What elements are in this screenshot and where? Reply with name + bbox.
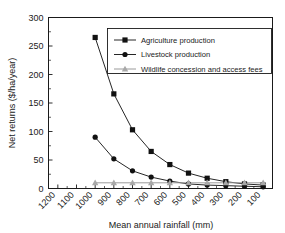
data-point-1-2 — [130, 168, 135, 173]
data-point-0-4 — [167, 162, 172, 167]
data-point-0-2 — [130, 127, 135, 132]
x-axis-title: Mean annual rainfall (mm) — [109, 220, 214, 230]
legend-item-label-0: Agriculture production — [141, 36, 215, 45]
series-line-1 — [95, 137, 263, 187]
y-tick-label: 0 — [38, 184, 43, 194]
chart-canvas: 050100150200250300 120011001000900800700… — [0, 0, 285, 233]
x-tick-label: 1100 — [55, 190, 76, 211]
data-point-1-3 — [149, 175, 154, 180]
data-point-0-3 — [149, 149, 154, 154]
data-point-1-0 — [93, 135, 98, 140]
y-tick-label: 50 — [33, 155, 43, 165]
y-axis-title: Net returns ($/ha/year) — [7, 58, 17, 149]
x-tick-label: 1000 — [73, 190, 94, 211]
y-tick-label: 150 — [28, 98, 43, 108]
chart-figure: 050100150200250300 120011001000900800700… — [0, 0, 285, 233]
x-tick-label: 100 — [245, 190, 263, 208]
legend-circle-icon — [122, 52, 127, 57]
x-tick-label: 500 — [170, 190, 188, 208]
x-tick-label: 300 — [208, 190, 226, 208]
x-tick-label: 200 — [226, 190, 244, 208]
data-point-0-0 — [93, 35, 98, 40]
data-point-0-1 — [111, 91, 116, 96]
x-tick-label: 400 — [189, 190, 207, 208]
y-tick-label: 250 — [28, 41, 43, 51]
y-tick-label: 200 — [28, 70, 43, 80]
x-tick-label: 800 — [114, 190, 132, 208]
data-point-1-1 — [111, 156, 116, 161]
x-tick-label: 900 — [96, 190, 114, 208]
data-point-0-5 — [186, 171, 191, 176]
legend-square-icon — [122, 37, 127, 42]
legend-item-label-1: Livestock production — [141, 50, 210, 59]
x-tick-label: 600 — [152, 190, 170, 208]
chart-legend: Agriculture productionLivestock producti… — [108, 29, 272, 74]
legend-item-label-2: Wildlife concession and access fees — [141, 65, 263, 74]
y-tick-label: 100 — [28, 127, 43, 137]
y-tick-label: 300 — [28, 13, 43, 23]
x-tick-label: 700 — [133, 190, 151, 208]
